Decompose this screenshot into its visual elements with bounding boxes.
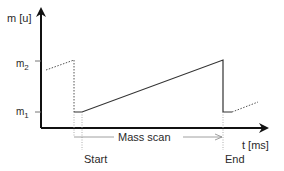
m1-label: m1: [16, 106, 29, 120]
m2-label: m2: [16, 58, 29, 72]
start-label: Start: [84, 153, 107, 165]
end-label: End: [225, 153, 245, 165]
next-scan-dotted: [232, 102, 258, 112]
previous-scan-dotted: [46, 60, 74, 70]
mass-scan-label: Mass scan: [118, 131, 171, 143]
x-axis-label: t [ms]: [242, 139, 269, 151]
mass-scan-diagram: m [u] t [ms] m2 m1 Mass scan Start End: [0, 0, 284, 171]
y-axis-label: m [u]: [7, 12, 31, 24]
scan-ramp-line: [74, 60, 232, 112]
